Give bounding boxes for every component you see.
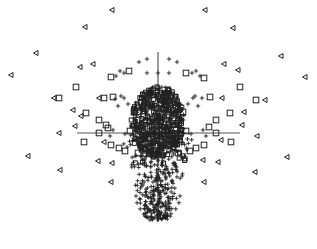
- square-marker: [83, 110, 89, 116]
- square-marker: [227, 110, 233, 116]
- square-marker: [177, 156, 181, 160]
- square-marker: [101, 95, 107, 101]
- square-marker: [201, 142, 207, 148]
- square-marker: [129, 118, 133, 122]
- square-marker: [253, 97, 259, 103]
- square-marker: [206, 124, 212, 130]
- triangle-marker: [303, 75, 308, 80]
- plus-marker: [186, 102, 190, 106]
- square-marker: [187, 148, 193, 154]
- triangle-marker: [219, 138, 224, 143]
- plus-marker: [167, 57, 171, 61]
- triangle-marker: [203, 8, 208, 13]
- triangle-marker: [102, 140, 107, 145]
- plus-marker: [166, 182, 170, 186]
- plus-marker: [113, 97, 117, 101]
- plus-marker: [177, 201, 181, 205]
- plus-marker: [167, 157, 171, 161]
- triangle-marker: [73, 124, 78, 129]
- plus-marker: [168, 174, 172, 178]
- square-marker: [228, 139, 234, 145]
- triangle-marker: [236, 68, 241, 73]
- plus-marker: [200, 96, 204, 100]
- triangle-marker: [202, 180, 207, 185]
- plus-marker: [201, 128, 205, 132]
- triangle-marker: [255, 134, 260, 139]
- plus-marker: [137, 60, 141, 64]
- plus-marker: [173, 186, 177, 190]
- plus-marker: [145, 71, 149, 75]
- triangle-marker: [242, 110, 247, 115]
- square-marker: [193, 145, 199, 151]
- plus-marker: [167, 71, 171, 75]
- triangle-marker: [83, 25, 88, 30]
- triangle-marker: [110, 8, 115, 13]
- plus-marker: [114, 74, 118, 78]
- square-marker: [126, 68, 132, 74]
- plus-marker: [191, 96, 195, 100]
- plus-marker: [145, 57, 149, 61]
- plus-marker: [135, 189, 139, 193]
- triangle-marker: [222, 62, 227, 67]
- plot-area: [0, 0, 317, 249]
- plus-marker: [137, 172, 141, 176]
- triangle-marker: [216, 160, 221, 165]
- plus-marker: [116, 104, 120, 108]
- square-marker: [183, 70, 189, 76]
- plus-marker: [149, 170, 153, 174]
- plus-marker: [126, 102, 130, 106]
- plus-marker: [144, 200, 148, 204]
- triangle-marker: [240, 123, 245, 128]
- plus-marker: [180, 174, 184, 178]
- plus-marker: [204, 134, 208, 138]
- square-marker: [96, 117, 102, 123]
- triangle-marker: [34, 51, 39, 56]
- plus-marker: [118, 69, 122, 73]
- plus-marker: [170, 197, 174, 201]
- plus-marker: [196, 104, 200, 108]
- plus-marker: [146, 178, 150, 182]
- plus-marker: [152, 185, 156, 189]
- plus-marker: [149, 165, 153, 169]
- triangle-marker: [109, 180, 114, 185]
- triangle-marker: [285, 155, 290, 160]
- plus-marker: [137, 165, 141, 169]
- plus-marker: [174, 196, 178, 200]
- triangle-marker: [71, 108, 76, 113]
- triangle-marker: [26, 154, 31, 159]
- plus-marker: [130, 165, 134, 169]
- plus-marker: [122, 71, 126, 75]
- triangle-marker: [79, 114, 84, 119]
- triangle-marker: [58, 168, 63, 173]
- plus-marker: [136, 179, 140, 183]
- triangle-marker: [263, 98, 268, 103]
- triangle-marker: [253, 170, 258, 175]
- square-marker: [237, 84, 243, 90]
- plus-marker: [170, 167, 174, 171]
- plus-marker: [190, 138, 194, 142]
- square-marker: [108, 74, 114, 80]
- triangle-marker: [220, 96, 225, 101]
- triangle-marker: [52, 96, 57, 101]
- triangle-marker: [231, 26, 236, 31]
- plus-marker: [111, 128, 115, 132]
- plus-marker: [138, 207, 142, 211]
- plus-marker: [138, 197, 142, 201]
- square-marker: [73, 84, 79, 90]
- plus-marker: [185, 137, 189, 141]
- plus-marker: [135, 201, 139, 205]
- plus-marker: [138, 197, 142, 201]
- plus-marker: [122, 142, 126, 146]
- square-marker: [116, 145, 122, 151]
- plus-marker: [156, 71, 160, 75]
- plus-marker: [190, 71, 194, 75]
- plus-marker: [186, 141, 190, 145]
- triangle-marker: [78, 65, 83, 70]
- triangle-marker: [201, 158, 206, 163]
- triangle-marker: [91, 62, 96, 67]
- plus-marker: [174, 207, 178, 211]
- plus-marker: [175, 60, 179, 64]
- plus-marker: [134, 194, 138, 198]
- square-marker: [56, 95, 62, 101]
- square-marker: [81, 139, 87, 145]
